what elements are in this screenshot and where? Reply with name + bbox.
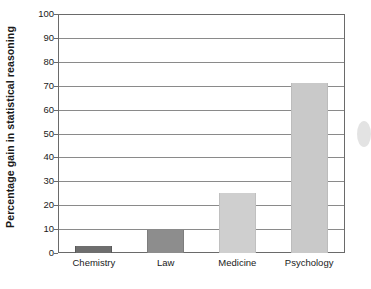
x-axis-label-psychology: Psychology: [273, 256, 345, 269]
page-edge-artifact: [357, 121, 371, 147]
x-axis-label-medicine: Medicine: [202, 256, 274, 269]
y-axis-tick-label: 90: [28, 33, 54, 43]
y-axis-tick-label: 20: [28, 200, 54, 210]
y-axis-tick-label: 50: [28, 129, 54, 139]
bar-psychology: [291, 83, 328, 253]
bar-medicine: [219, 193, 256, 253]
x-axis-category-labels: ChemistryLawMedicinePsychology: [58, 256, 345, 272]
bars-group: [58, 14, 345, 253]
y-axis-tick-label: 40: [28, 153, 54, 163]
y-axis-tick-mark: [54, 253, 58, 254]
x-axis-label-chemistry: Chemistry: [58, 256, 130, 269]
bar-chemistry: [75, 246, 112, 253]
y-axis-title: Percentage gain in statistical reasoning: [0, 0, 20, 253]
x-axis-label-law: Law: [130, 256, 202, 269]
y-axis-tick-label: 80: [28, 57, 54, 67]
bar-law: [147, 230, 184, 253]
y-axis-tick-label: 10: [28, 224, 54, 234]
y-axis-tick-labels: 0102030405060708090100: [24, 14, 54, 253]
y-axis-tick-label: 30: [28, 177, 54, 187]
y-axis-tick-label: 0: [28, 248, 54, 258]
y-axis-tick-label: 70: [28, 81, 54, 91]
y-axis-tick-label: 100: [28, 9, 54, 19]
y-axis-tick-label: 60: [28, 105, 54, 115]
y-axis-title-text: Percentage gain in statistical reasoning: [4, 26, 16, 228]
